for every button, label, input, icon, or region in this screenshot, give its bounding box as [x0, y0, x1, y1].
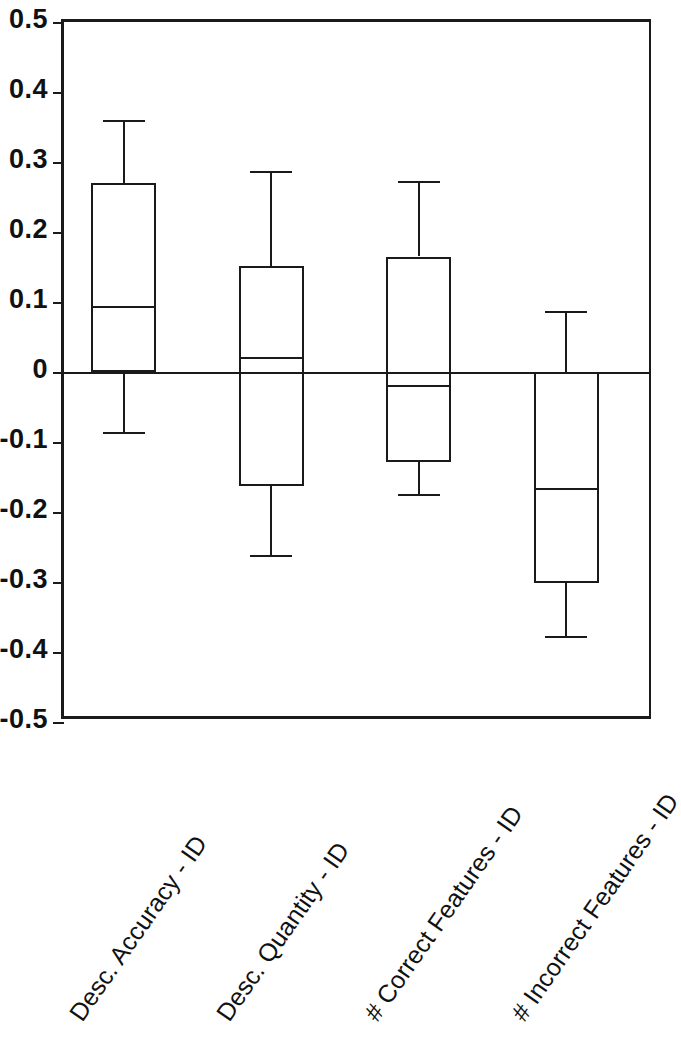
y-axis-tick-mark: [53, 302, 64, 304]
median-line: [534, 488, 599, 490]
lower-whisker-stem: [123, 372, 125, 432]
y-axis-tick-label: 0.2: [9, 216, 48, 243]
y-axis-tick-label: 0.1: [9, 286, 48, 313]
upper-whisker-cap: [103, 120, 145, 122]
x-axis-category-label: Desc. Quantity - ID: [212, 838, 354, 1025]
upper-whisker-cap: [398, 181, 440, 183]
box-iqr-rect: [534, 372, 599, 583]
y-axis-tick-label: 0.3: [9, 146, 48, 173]
x-axis-category-labels: Desc. Accuracy - IDDesc. Quantity - ID# …: [0, 719, 658, 1059]
x-axis-category-label: # Incorrect Features - ID: [507, 789, 681, 1025]
median-line: [386, 385, 451, 387]
lower-whisker-cap: [545, 636, 587, 638]
lower-whisker-cap: [398, 494, 440, 496]
y-axis-tick-mark: [53, 92, 64, 94]
upper-whisker-stem: [270, 171, 272, 266]
y-axis-tick-mark: [53, 512, 64, 514]
box-iqr-rect: [386, 257, 451, 462]
x-axis-category-label: # Correct Features - ID: [360, 802, 527, 1026]
upper-whisker-cap: [250, 171, 292, 173]
upper-whisker-stem: [123, 120, 125, 183]
box-iqr-rect: [91, 183, 156, 372]
y-axis-tick-mark: [53, 162, 64, 164]
boxplot-group: [239, 22, 304, 716]
y-axis-tick-mark: [53, 652, 64, 654]
upper-whisker-stem: [565, 311, 567, 372]
lower-whisker-stem: [418, 462, 420, 494]
boxplot-group: [534, 22, 599, 716]
boxplot-group: [91, 22, 156, 716]
lower-whisker-stem: [565, 583, 567, 636]
lower-whisker-cap: [250, 555, 292, 557]
median-line: [91, 306, 156, 308]
plot-area: [61, 19, 651, 719]
median-line: [239, 357, 304, 359]
box-iqr-rect: [239, 266, 304, 487]
lower-whisker-stem: [270, 486, 272, 555]
y-axis-tick-mark: [53, 582, 64, 584]
x-axis-category-label: Desc. Accuracy - ID: [65, 831, 211, 1025]
y-axis-tick-label: -0.2: [0, 496, 48, 523]
y-axis-tick-mark: [53, 232, 64, 234]
y-axis-tick-label: -0.4: [0, 636, 48, 663]
y-axis-tick-label: 0.5: [9, 6, 48, 33]
upper-whisker-cap: [545, 311, 587, 313]
y-axis-tick-mark: [53, 22, 64, 24]
y-axis-tick-mark: [53, 442, 64, 444]
boxplot-group: [386, 22, 451, 716]
y-axis-tick-label: 0: [32, 356, 48, 383]
upper-whisker-stem: [418, 181, 420, 257]
y-axis-tick-label: -0.1: [0, 426, 48, 453]
y-axis-tick-label: -0.3: [0, 566, 48, 593]
lower-whisker-cap: [103, 432, 145, 434]
y-axis-tick-label: 0.4: [9, 76, 48, 103]
